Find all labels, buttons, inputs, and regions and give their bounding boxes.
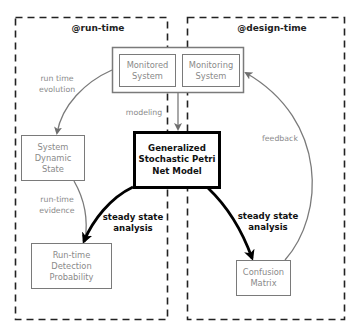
runtime-detection-probability-node: Run-time Detection Probability xyxy=(31,243,112,289)
monitoring-system-node: Monitoring System xyxy=(182,54,240,87)
gspn-model-node: Generalized Stochastic Petri Net Model xyxy=(133,131,221,189)
run-time-evolution-label: run time evolution xyxy=(36,74,78,95)
steady-state-left-label: steady state analysis xyxy=(101,212,165,234)
designtime-region-title: @design-time xyxy=(232,23,312,33)
confusion-matrix-node: Confusion Matrix xyxy=(236,260,291,296)
system-dynamic-state-node: System Dynamic State xyxy=(21,135,85,181)
run-time-evidence-label: run-time evidence xyxy=(37,195,77,216)
feedback-label: feedback xyxy=(259,134,301,145)
steady-state-right-label: steady state analysis xyxy=(236,211,300,233)
runtime-region-title: @run-time xyxy=(68,23,128,33)
modeling-label: modeling xyxy=(124,108,164,119)
monitored-system-node: Monitored System xyxy=(119,54,176,87)
